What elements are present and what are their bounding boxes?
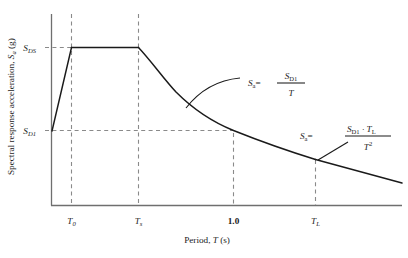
x-axis-title-main: Period, (184, 235, 213, 245)
y-axis-title-unit: (g) (6, 38, 16, 51)
y-axis-title-main: Spectral response acceleration, (6, 59, 16, 175)
design-response-spectrum-figure: Spectral response acceleration, Sa (g) S… (0, 0, 408, 258)
formula2-numerator-extra: · T (360, 124, 373, 134)
chart-svg: Spectral response acceleration, Sa (g) S… (0, 0, 408, 258)
formula2-numerator: SD1 · TL (347, 124, 376, 135)
y-axis-title-group: Spectral response acceleration, Sa (g) (6, 38, 17, 175)
x-tick-label-TL-sub: L (315, 220, 320, 227)
x-axis-title: Period, T (s) (184, 235, 230, 245)
formula2-numerator-sub: D1 (352, 128, 360, 135)
x-tick-label-1p0: 1.0 (228, 216, 240, 226)
x-axis-title-unit: (s) (218, 235, 230, 245)
formula2-denominator-exponent: 2 (369, 140, 372, 147)
x-tick-label-Ts-sub: s (140, 220, 143, 227)
formula1-numerator-sub: D1 (289, 75, 297, 82)
formula1-denominator: T (288, 88, 294, 98)
y-axis-title: Spectral response acceleration, Sa (g) (6, 38, 17, 175)
y-tick-label-SDS-sub: DS (27, 47, 37, 54)
formula2-numerator-extra-sub: L (372, 128, 376, 135)
formula2-equals: = (308, 131, 313, 141)
formula1-equals: = (256, 78, 261, 88)
y-tick-label-SD1-sub: D1 (27, 130, 36, 137)
